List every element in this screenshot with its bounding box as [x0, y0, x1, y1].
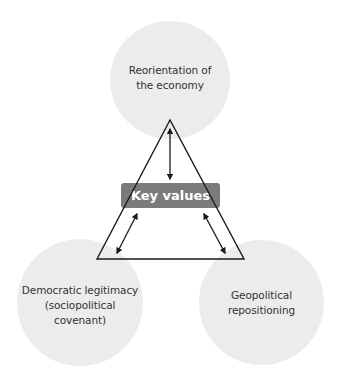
triangle-arrows-overlay [0, 0, 340, 377]
arrow-to-right-icon [204, 214, 225, 253]
arrow-to-left-icon [117, 214, 137, 253]
